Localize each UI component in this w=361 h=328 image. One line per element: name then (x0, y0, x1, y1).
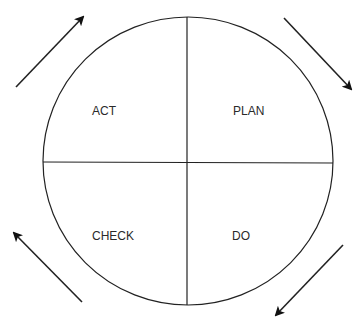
arrow-plan-to-do-icon (284, 18, 351, 89)
arrow-check-to-act-icon (14, 233, 82, 302)
horizontal-divider (43, 162, 333, 163)
quadrant-label-do: DO (232, 229, 250, 243)
arrow-act-to-plan-icon (16, 17, 83, 87)
pdca-diagram: ACT PLAN CHECK DO (0, 0, 361, 328)
cycle-circle (43, 17, 333, 305)
quadrant-label-plan: PLAN (233, 104, 264, 118)
arrow-do-to-check-icon (276, 245, 343, 315)
quadrant-label-act: ACT (92, 104, 117, 118)
quadrant-label-check: CHECK (92, 229, 134, 243)
